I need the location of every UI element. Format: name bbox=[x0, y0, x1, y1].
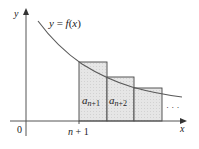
ellipsis: · · · bbox=[166, 102, 180, 112]
curve-label-paren-close: ) bbox=[77, 17, 81, 30]
curve-label: y = f(x) bbox=[48, 17, 81, 30]
integral-test-diagram: y x 0 y = f(x) n + 1 an+1 an+2 · · · bbox=[0, 0, 199, 149]
curve-label-eq: = bbox=[54, 17, 66, 29]
diagram-canvas: y x 0 y = f(x) n + 1 an+1 an+2 · · · bbox=[0, 0, 199, 149]
x-axis-label: x bbox=[179, 123, 185, 134]
origin-label: 0 bbox=[17, 124, 22, 135]
y-axis-label: y bbox=[13, 8, 19, 19]
tick-label-n-plus-1: n + 1 bbox=[68, 126, 89, 137]
y-axis-arrow-icon bbox=[23, 8, 29, 15]
